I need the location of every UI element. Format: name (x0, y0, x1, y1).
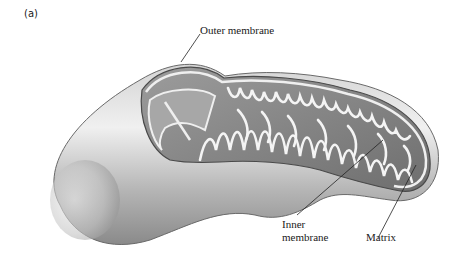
label-outer-membrane: Outer membrane (200, 24, 274, 36)
mitochondrion-illustration (0, 0, 464, 266)
label-inner-membrane-line2: membrane (282, 231, 328, 243)
leader-outer-membrane (181, 34, 200, 62)
label-inner-membrane-line1: Inner (282, 218, 305, 230)
label-matrix: Matrix (366, 231, 396, 243)
